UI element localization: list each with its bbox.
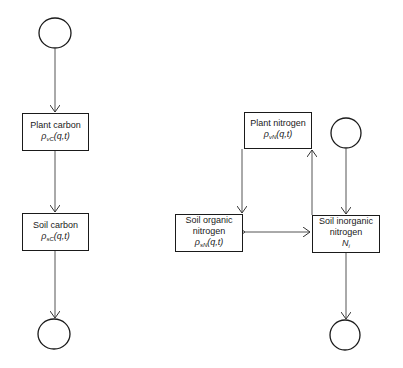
plant-nitrogen-box: Plant nitrogen ρvN(q,t) xyxy=(244,112,312,149)
plant-carbon-symbol: ρvC(q,t) xyxy=(41,131,70,145)
plant-nitrogen-label: Plant nitrogen xyxy=(250,118,306,129)
nitrogen-source-node xyxy=(331,118,361,148)
soil-inorganic-nitrogen-label-line2: nitrogen xyxy=(330,227,363,238)
soil-organic-nitrogen-symbol: ρsN(q,t) xyxy=(195,237,224,251)
plant-carbon-label: Plant carbon xyxy=(30,120,81,131)
soil-inorganic-nitrogen-symbol: Ni xyxy=(342,238,350,252)
nitrogen-sink-node xyxy=(330,320,360,350)
soil-inorganic-nitrogen-box: Soil inorganic nitrogen Ni xyxy=(312,215,380,253)
soil-organic-nitrogen-label-line2: nitrogen xyxy=(193,226,226,237)
soil-carbon-box: Soil carbon ρsC(q,t) xyxy=(22,213,89,251)
plant-nitrogen-symbol: ρvN(q,t) xyxy=(264,129,293,143)
soil-organic-nitrogen-box: Soil organic nitrogen ρsN(q,t) xyxy=(175,214,243,252)
carbon-sink-node xyxy=(38,319,70,349)
soil-inorganic-nitrogen-label-line1: Soil inorganic xyxy=(319,216,373,227)
soil-organic-nitrogen-label-line1: Soil organic xyxy=(185,215,232,226)
soil-carbon-symbol: ρsC(q,t) xyxy=(41,231,70,245)
carbon-source-node xyxy=(39,18,71,48)
plant-carbon-box: Plant carbon ρvC(q,t) xyxy=(22,113,89,151)
soil-carbon-label: Soil carbon xyxy=(33,220,78,231)
diagram-canvas xyxy=(0,0,403,368)
